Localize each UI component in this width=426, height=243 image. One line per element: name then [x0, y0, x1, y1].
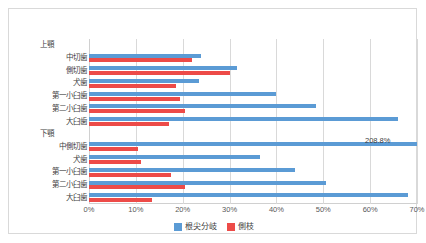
- group-label-下顎: 下顎: [40, 130, 54, 138]
- bar-側枝-大臼歯: [89, 122, 169, 126]
- bar-根尖分岐-大臼歯: [89, 193, 408, 197]
- bar-側枝-第二小臼歯: [89, 185, 185, 189]
- gridline-60%: [370, 39, 371, 204]
- x-tick-60%: 60%: [363, 205, 378, 214]
- bar-根尖分岐-第二小臼歯: [89, 181, 326, 185]
- legend-swatch-blue: [174, 223, 182, 231]
- legend-label-0: 根尖分岐: [185, 223, 217, 231]
- legend-swatch-red: [227, 223, 235, 231]
- gridline-30%: [230, 39, 231, 204]
- bar-根尖分岐-第一小臼歯: [89, 168, 295, 172]
- gridline-50%: [323, 39, 324, 204]
- x-tick-40%: 40%: [269, 205, 284, 214]
- plot-area: [89, 39, 417, 204]
- bar-側枝-第一小臼歯: [89, 97, 180, 101]
- legend-item-0: 根尖分岐: [174, 223, 217, 231]
- data-label-annotation: 208.8%: [365, 136, 390, 145]
- legend-label-1: 側枝: [238, 223, 254, 231]
- x-axis-ticks: 0%10%20%30%40%50%60%70%: [89, 205, 417, 217]
- bar-側枝-第二小臼歯: [89, 109, 185, 113]
- bar-根尖分岐-側切歯: [89, 66, 237, 70]
- category-label-側切歯: 側切歯: [66, 67, 87, 75]
- bar-根尖分岐-第二小臼歯: [89, 104, 316, 108]
- gridline-70%: [417, 39, 418, 204]
- x-tick-70%: 70%: [409, 205, 424, 214]
- category-label-第二小臼歯: 第二小臼歯: [52, 105, 87, 113]
- category-label-中側切歯: 中側切歯: [59, 143, 87, 151]
- bar-側枝-犬歯: [89, 160, 141, 164]
- chart-frame: 上顎中切歯側切歯犬歯第一小臼歯第二小臼歯大臼歯下顎中側切歯犬歯第一小臼歯第二小臼…: [8, 8, 417, 234]
- bar-側枝-側切歯: [89, 71, 230, 75]
- bar-根尖分岐-大臼歯: [89, 117, 398, 121]
- gridline-20%: [183, 39, 184, 204]
- category-axis-labels: 上顎中切歯側切歯犬歯第一小臼歯第二小臼歯大臼歯下顎中側切歯犬歯第一小臼歯第二小臼…: [18, 39, 89, 204]
- category-label-中切歯: 中切歯: [66, 54, 87, 62]
- bar-根尖分岐-中切歯: [89, 54, 201, 58]
- category-label-大臼歯: 大臼歯: [66, 118, 87, 126]
- x-tick-20%: 20%: [175, 205, 190, 214]
- x-tick-30%: 30%: [222, 205, 237, 214]
- category-label-犬歯: 犬歯: [73, 156, 87, 164]
- category-label-第二小臼歯: 第二小臼歯: [52, 181, 87, 189]
- bar-側枝-大臼歯: [89, 198, 152, 202]
- category-label-大臼歯: 大臼歯: [66, 194, 87, 202]
- bar-根尖分岐-犬歯: [89, 155, 260, 159]
- category-label-第一小臼歯: 第一小臼歯: [52, 92, 87, 100]
- bar-側枝-犬歯: [89, 84, 176, 88]
- group-label-上顎: 上顎: [40, 41, 54, 49]
- category-label-犬歯: 犬歯: [73, 79, 87, 87]
- chart-legend: 根尖分岐 側枝: [9, 223, 418, 231]
- category-label-第一小臼歯: 第一小臼歯: [52, 168, 87, 176]
- x-tick-50%: 50%: [316, 205, 331, 214]
- bar-根尖分岐-犬歯: [89, 79, 199, 83]
- legend-item-1: 側枝: [227, 223, 254, 231]
- x-tick-0%: 0%: [84, 205, 95, 214]
- x-tick-10%: 10%: [128, 205, 143, 214]
- gridline-40%: [276, 39, 277, 204]
- bar-側枝-中切歯: [89, 58, 192, 62]
- bar-側枝-第一小臼歯: [89, 173, 171, 177]
- bar-根尖分岐-第一小臼歯: [89, 92, 276, 96]
- bar-側枝-中側切歯: [89, 147, 138, 151]
